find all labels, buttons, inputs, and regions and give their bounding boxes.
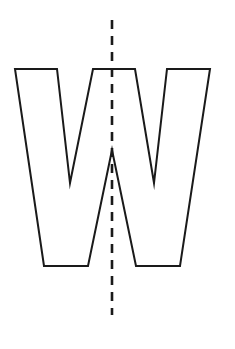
figure-canvas: [0, 0, 235, 349]
symmetry-figure-svg: [0, 0, 235, 349]
